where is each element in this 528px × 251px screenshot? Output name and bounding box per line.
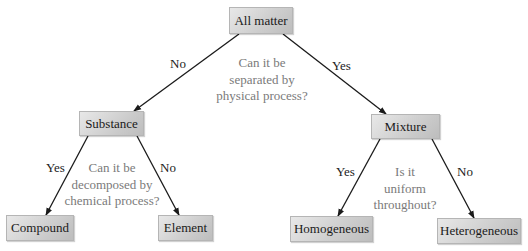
node-element: Element <box>158 215 213 241</box>
question-line: decomposed by <box>65 177 160 194</box>
edge-label-no: No <box>457 164 473 180</box>
node-all-matter: All matter <box>229 7 293 34</box>
question-physical-separation: Can it be separated by physical process? <box>216 55 307 105</box>
question-line: chemical process? <box>65 193 160 210</box>
question-line: physical process? <box>216 88 307 105</box>
edge-label-no: No <box>160 160 176 176</box>
question-uniformity: Is it uniform throughout? <box>374 164 437 214</box>
question-line: Can it be <box>216 55 307 72</box>
node-label: All matter <box>234 13 287 29</box>
node-label: Element <box>164 220 207 236</box>
matter-classification-diagram: All matter Substance Mixture Compound El… <box>0 0 528 251</box>
question-line: uniform <box>374 181 437 198</box>
node-label: Heterogeneous <box>440 223 518 239</box>
node-homogeneous: Homogeneous <box>290 216 373 242</box>
node-label: Mixture <box>385 119 427 135</box>
node-label: Compound <box>11 220 69 236</box>
node-mixture: Mixture <box>371 114 440 139</box>
edge-label-yes: Yes <box>46 160 65 176</box>
edge-label-no: No <box>170 56 186 72</box>
edge-label-yes: Yes <box>332 58 351 74</box>
node-compound: Compound <box>6 215 74 241</box>
question-chemical-decomposition: Can it be decomposed by chemical process… <box>65 160 160 210</box>
question-line: Can it be <box>65 160 160 177</box>
question-line: Is it <box>374 164 437 181</box>
edge-label-yes: Yes <box>336 164 355 180</box>
node-substance: Substance <box>79 111 144 136</box>
question-line: separated by <box>216 72 307 89</box>
question-line: throughout? <box>374 197 437 214</box>
node-label: Homogeneous <box>294 221 369 237</box>
node-label: Substance <box>85 116 138 132</box>
node-heterogeneous: Heterogeneous <box>437 218 521 244</box>
